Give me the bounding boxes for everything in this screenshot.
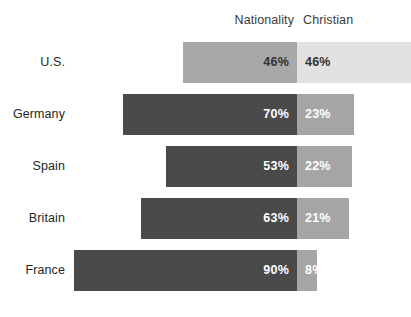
bar-track: 46%46% xyxy=(0,42,407,83)
chart-row: Germany70%23% xyxy=(0,94,407,135)
bar-value-nationality: 53% xyxy=(263,146,289,187)
bar-segment-christian: 46% xyxy=(297,42,411,83)
bar-segment-nationality: 63% xyxy=(141,198,297,239)
bar-segment-nationality: 46% xyxy=(183,42,297,83)
bar-value-nationality: 90% xyxy=(263,250,289,291)
column-header-christian: Christian xyxy=(303,11,353,29)
bar-value-christian: 23% xyxy=(305,94,331,135)
bar-segment-nationality: 53% xyxy=(166,146,297,187)
bar-segment-christian: 23% xyxy=(297,94,354,135)
bar-track: 63%21% xyxy=(0,198,407,239)
bar-track: 90%8% xyxy=(0,250,407,291)
bar-value-christian: 21% xyxy=(305,198,331,239)
column-header-nationality: Nationality xyxy=(235,11,294,29)
chart-row: France90%8% xyxy=(0,250,407,291)
bar-segment-christian: 8% xyxy=(297,250,317,291)
bar-value-nationality: 70% xyxy=(263,94,289,135)
bar-track: 53%22% xyxy=(0,146,407,187)
bar-value-nationality: 46% xyxy=(263,42,289,83)
bar-segment-christian: 22% xyxy=(297,146,352,187)
bar-value-nationality: 63% xyxy=(263,198,289,239)
bar-track: 70%23% xyxy=(0,94,407,135)
chart-legend-headers: Nationality Christian xyxy=(0,11,407,29)
chart-row: U.S.46%46% xyxy=(0,42,407,83)
bar-value-christian: 8% xyxy=(305,250,323,291)
chart-rows: U.S.46%46%Germany70%23%Spain53%22%Britai… xyxy=(0,42,407,302)
bar-value-christian: 22% xyxy=(305,146,331,187)
bar-value-christian: 46% xyxy=(305,42,331,83)
chart-row: Spain53%22% xyxy=(0,146,407,187)
bar-segment-christian: 21% xyxy=(297,198,349,239)
bar-segment-nationality: 90% xyxy=(74,250,297,291)
chart-row: Britain63%21% xyxy=(0,198,407,239)
bar-segment-nationality: 70% xyxy=(123,94,297,135)
